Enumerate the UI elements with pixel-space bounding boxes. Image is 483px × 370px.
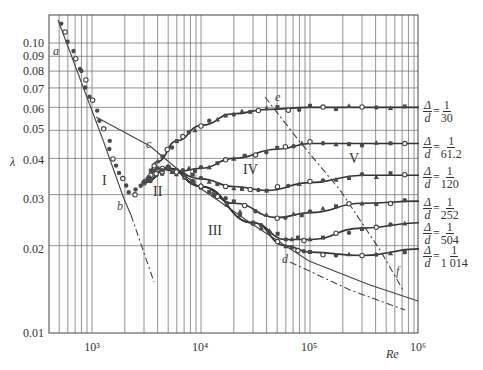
- data-point: [90, 98, 94, 102]
- data-point: [347, 202, 351, 206]
- data-point: [300, 213, 304, 217]
- data-point: [253, 153, 257, 157]
- data-point: [148, 179, 152, 183]
- data-point: [108, 139, 112, 143]
- data-point: [174, 170, 178, 174]
- x-tick-1e3: 10³: [84, 340, 100, 354]
- data-point: [302, 238, 306, 242]
- data-point: [389, 141, 393, 145]
- data-point: [388, 201, 392, 205]
- data-point: [334, 231, 338, 235]
- data-point: [160, 168, 164, 172]
- data-point: [296, 236, 300, 240]
- data-point: [374, 140, 379, 145]
- data-point: [223, 158, 227, 162]
- data-point: [97, 118, 101, 122]
- data-point: [175, 139, 179, 143]
- data-point: [248, 110, 252, 114]
- data-point: [71, 49, 75, 53]
- data-point: [182, 173, 186, 177]
- data-point: [388, 222, 392, 226]
- data-point: [191, 173, 195, 177]
- data-point: [83, 85, 87, 89]
- point-c: c: [146, 137, 152, 151]
- data-point: [121, 176, 125, 180]
- data-point: [320, 206, 325, 211]
- data-point: [199, 124, 203, 128]
- roughness-curves: [144, 107, 419, 255]
- x-tick-1e4: 10⁴: [192, 340, 208, 354]
- data-point: [127, 190, 131, 194]
- point-f: f: [396, 264, 401, 278]
- data-point: [156, 166, 160, 170]
- data-point: [403, 198, 407, 202]
- data-point: [215, 161, 219, 165]
- d-symbol: d: [425, 257, 431, 269]
- roughness-curve: [144, 168, 419, 255]
- data-point: [346, 252, 351, 257]
- data-point: [264, 150, 268, 154]
- data-point: [321, 141, 325, 145]
- data-point: [138, 184, 142, 188]
- data-point: [360, 105, 364, 109]
- equals: =: [433, 170, 440, 185]
- data-point: [403, 250, 407, 254]
- data-point: [267, 231, 271, 235]
- equals: =: [433, 104, 440, 119]
- data-point: [199, 184, 203, 188]
- x-tick-1e5: 10⁵: [301, 340, 317, 354]
- data-point: [133, 193, 137, 197]
- data-point: [297, 108, 301, 112]
- data-point: [256, 108, 260, 112]
- data-point: [237, 209, 242, 214]
- data-point: [334, 253, 338, 257]
- data-point: [207, 119, 211, 123]
- data-point: [193, 169, 197, 173]
- region-IV: IV: [243, 162, 258, 177]
- d-symbol: d: [425, 112, 431, 124]
- data-point: [63, 30, 67, 34]
- legend-1-61.2: Δd = 161.2: [423, 135, 462, 160]
- data-point: [286, 184, 290, 188]
- data-point: [321, 178, 325, 182]
- data-point: [276, 232, 280, 236]
- data-point: [347, 142, 351, 146]
- data-point: [403, 141, 407, 145]
- data-point: [154, 172, 158, 176]
- data-point: [111, 157, 115, 161]
- data-point: [360, 253, 364, 257]
- data-point: [334, 204, 338, 208]
- point-e: e: [275, 90, 281, 104]
- data-point: [160, 154, 164, 158]
- data-point: [275, 239, 279, 243]
- laminar-extension: [131, 215, 154, 282]
- data-point: [65, 40, 69, 44]
- reference-lines: [58, 20, 418, 310]
- data-point: [187, 130, 191, 134]
- data-point: [114, 163, 118, 167]
- y-tick-0.08: 0.08: [23, 64, 44, 78]
- data-point: [308, 140, 312, 144]
- equals: =: [433, 140, 440, 155]
- data-point: [59, 21, 63, 25]
- data-point: [321, 236, 325, 240]
- blasius-extension: [290, 262, 405, 310]
- data-point: [321, 253, 325, 257]
- data-point: [346, 103, 351, 108]
- data-point: [243, 154, 247, 158]
- y-axis-label: λ: [9, 155, 15, 169]
- data-point: [403, 104, 407, 108]
- data-point: [238, 213, 242, 217]
- data-point: [334, 107, 338, 111]
- data-point: [291, 144, 295, 148]
- data-point: [265, 189, 269, 193]
- data-point: [256, 188, 260, 192]
- data-point: [286, 108, 290, 112]
- data-point: [275, 216, 279, 220]
- data-point: [308, 209, 312, 213]
- data-point: [360, 172, 364, 176]
- data-point: [74, 57, 78, 61]
- equals: =: [433, 249, 440, 264]
- y-tick-0.10: 0.10: [23, 36, 44, 50]
- nikuradse-chart: 0.10 0.09 0.08 0.07 0.06 0.05 0.04 0.03 …: [0, 0, 483, 370]
